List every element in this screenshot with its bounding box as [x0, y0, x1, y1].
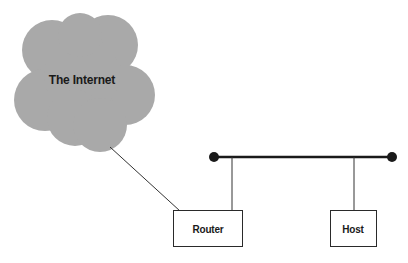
internet-label: The Internet [49, 73, 115, 87]
host-label: Host [342, 224, 363, 235]
network-diagram: The Internet Router Host [0, 0, 408, 263]
router-label: Router [192, 224, 223, 235]
internet-router-link [110, 147, 180, 211]
bus-terminator-right-icon [387, 152, 397, 162]
bus-terminator-left-icon [209, 152, 219, 162]
